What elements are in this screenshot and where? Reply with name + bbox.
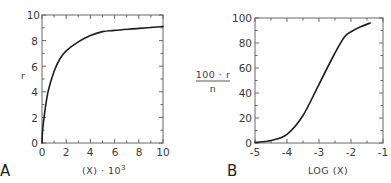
data-curve-a (42, 27, 163, 144)
x-tick-label: -2 (346, 146, 356, 158)
figure: 0 2 4 6 8 10 0 2 4 6 8 10 r (X) · 103 A … (0, 0, 391, 183)
y-axis-label-a: r (21, 70, 25, 81)
plot-frame-b (255, 18, 383, 143)
y-axis-label-denominator-b: n (210, 83, 217, 94)
y-axis-label-numerator-b: 100 · r (196, 69, 231, 80)
x-tick-label: 4 (87, 146, 94, 158)
y-tick-label: 2 (31, 112, 38, 124)
y-tick-label: 6 (31, 61, 38, 73)
data-curve-b (255, 23, 370, 142)
x-tick-label: -1 (378, 146, 388, 158)
x-tick-label: 2 (63, 146, 70, 158)
x-tick-label: 6 (112, 146, 119, 158)
panel-b: 0 20 40 60 80 100 -5 -4 -3 -2 -1 100 · r… (196, 12, 389, 180)
x-axis-label-a: (X) · 103 (82, 164, 126, 176)
ticks-a (42, 15, 163, 143)
plot-frame-a (42, 15, 163, 143)
y-tick-label: 0 (31, 137, 38, 149)
y-tick-label: 4 (31, 86, 38, 98)
panel-letter-a: A (0, 162, 11, 180)
y-tick-label: 100 (232, 12, 252, 24)
panel-letter-b: B (227, 162, 237, 180)
x-tick-label: 0 (39, 146, 46, 158)
x-tick-label: -3 (314, 146, 324, 158)
panel-a: 0 2 4 6 8 10 0 2 4 6 8 10 r (X) · 103 A (0, 9, 170, 180)
x-axis-label-b: LOG (X) (308, 165, 348, 176)
y-tick-label: 60 (239, 62, 252, 74)
y-tick-label: 80 (239, 37, 252, 49)
y-tick-label: 40 (239, 87, 252, 99)
x-tick-label: -4 (282, 146, 293, 158)
x-tick-label: 8 (136, 146, 143, 158)
x-tick-label: 10 (156, 146, 169, 158)
x-tick-label: -5 (250, 146, 260, 158)
ticks-b (255, 18, 383, 143)
y-tick-label: 8 (31, 35, 38, 47)
y-tick-label: 20 (239, 112, 252, 124)
y-tick-label: 10 (27, 9, 40, 21)
